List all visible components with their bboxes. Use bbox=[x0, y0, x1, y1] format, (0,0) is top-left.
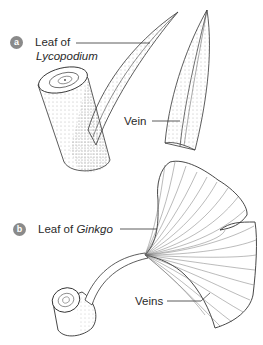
panel-b-badge: b bbox=[13, 223, 26, 236]
panel-a-genus: Lycopodium bbox=[36, 50, 98, 63]
lycopodium-leaf-detached bbox=[165, 10, 209, 150]
panel-a-title: Leaf of bbox=[35, 36, 70, 49]
veins-label: Veins bbox=[135, 295, 163, 308]
panel-b-title-prefix: Leaf of bbox=[38, 223, 73, 235]
vein-label: Vein bbox=[124, 115, 146, 128]
panel-a-badge: a bbox=[10, 36, 23, 49]
panel-b-title: Leaf of Ginkgo bbox=[38, 223, 113, 236]
botanical-figure: a Leaf of Lycopodium Vein b Leaf of Gink… bbox=[0, 0, 263, 345]
panel-b-genus-name: Ginkgo bbox=[76, 223, 112, 235]
panel-a-genus-name: Lycopodium bbox=[36, 50, 98, 62]
panel-a-title-prefix: Leaf of bbox=[35, 36, 70, 48]
